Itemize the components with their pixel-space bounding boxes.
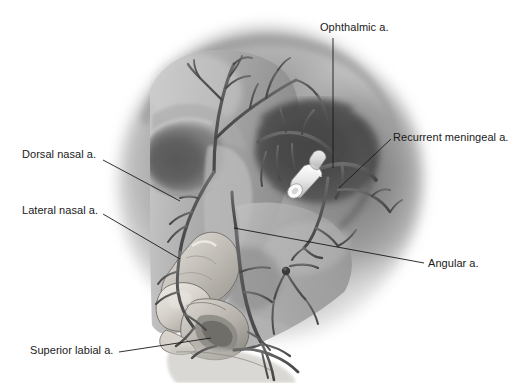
label-ophthalmic-artery: Ophthalmic a.	[320, 21, 389, 34]
anatomy-illustration	[0, 0, 528, 383]
anatomy-figure: Ophthalmic a. Recurrent meningeal a. Dor…	[0, 0, 528, 383]
label-superior-labial-artery: Superior labial a.	[30, 344, 113, 357]
label-lateral-nasal-artery: Lateral nasal a.	[22, 204, 98, 217]
upper-lip	[167, 347, 295, 383]
label-dorsal-nasal-artery: Dorsal nasal a.	[22, 148, 96, 161]
label-angular-artery: Angular a.	[428, 257, 479, 270]
label-recurrent-meningeal-artery: Recurrent meningeal a.	[393, 131, 508, 144]
